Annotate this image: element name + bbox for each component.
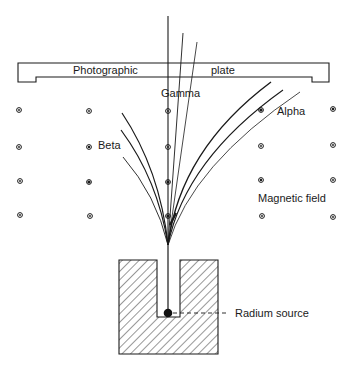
gamma-label: Gamma [161,87,201,99]
plate-label-left: Photographic [73,64,138,76]
magnetic-field-label: Magnetic field [258,192,326,204]
beta-label: Beta [98,139,122,151]
beta-tracks [121,113,168,245]
radium-source-label: Radium source [235,307,309,319]
radiation-deflection-diagram: Photographic plate [0,0,349,367]
photographic-plate: Photographic plate [18,63,329,82]
plate-label-right: plate [211,64,235,76]
alpha-label: Alpha [277,105,306,117]
radium-source-icon [164,309,173,318]
